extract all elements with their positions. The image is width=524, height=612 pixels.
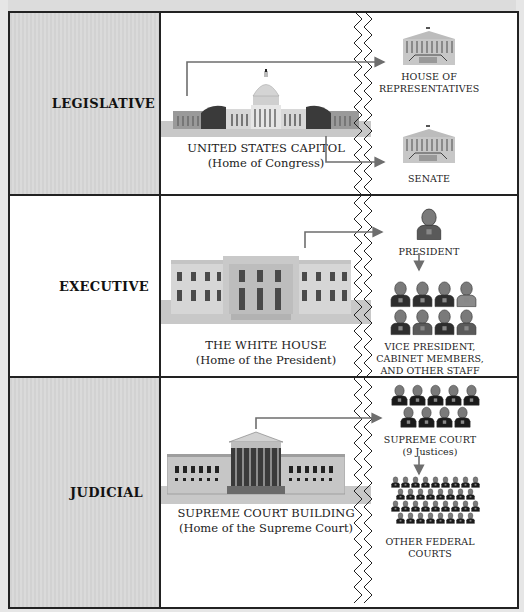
person-icon — [441, 500, 450, 512]
person-icon — [451, 476, 460, 488]
judges-group-icon — [385, 476, 485, 524]
person-icon — [426, 488, 435, 500]
org-cell-congress: HOUSE OF REPRESENTATIVES SENATE — [371, 13, 517, 194]
org-caption-senate: SENATE — [379, 173, 479, 185]
branch-label: LEGISLATIVE — [52, 96, 155, 111]
branch-cell-executive: EXECUTIVE — [10, 196, 161, 376]
row-executive: EXECUTIVE THE WHITE HOUSE — [10, 196, 517, 378]
building-caption: SUPREME COURT BUILDING (Home of the Supr… — [161, 506, 371, 536]
person-icon — [446, 488, 455, 500]
org-caption-house: HOUSE OF REPRESENTATIVES — [379, 71, 479, 95]
person-icon — [411, 500, 420, 512]
person-icon — [434, 280, 455, 308]
person-icon — [396, 512, 405, 524]
person-icon — [461, 476, 470, 488]
supreme-court-icon — [167, 430, 345, 498]
row-legislative: LEGISLATIVE — [10, 13, 517, 196]
justices-group-icon — [385, 384, 485, 428]
person-icon — [416, 512, 425, 524]
branches-table: LEGISLATIVE — [8, 11, 519, 609]
person-icon — [396, 488, 405, 500]
person-icon — [406, 488, 415, 500]
person-icon — [456, 308, 477, 336]
person-icon — [390, 308, 411, 336]
person-icon — [400, 406, 417, 428]
person-icon — [409, 384, 426, 406]
org-caption-supreme-court: SUPREME COURT (9 Justices) — [375, 434, 485, 458]
person-icon — [451, 500, 460, 512]
white-house-icon — [171, 256, 351, 320]
building-cell-capitol: UNITED STATES CAPITOL (Home of Congress) — [161, 13, 371, 194]
person-icon — [471, 500, 480, 512]
row-judicial: JUDICIAL SUPREME COURT BUILDI — [10, 378, 517, 607]
branch-label: JUDICIAL — [70, 485, 143, 500]
person-icon — [406, 512, 415, 524]
branch-cell-judicial: JUDICIAL — [10, 378, 161, 607]
person-icon — [412, 280, 433, 308]
building-cell-white-house: THE WHITE HOUSE (Home of the President) — [161, 196, 371, 376]
person-icon — [418, 406, 435, 428]
person-icon — [456, 488, 465, 500]
person-icon — [416, 208, 442, 240]
person-icon — [426, 512, 435, 524]
person-icon — [471, 476, 480, 488]
house-chamber-icon — [401, 27, 457, 67]
building-caption: UNITED STATES CAPITOL (Home of Congress) — [161, 141, 371, 171]
person-icon — [463, 384, 480, 406]
person-icon — [436, 512, 445, 524]
org-cell-executive: PRESIDENT VICE PRESIDENT, CABINET MEMBER… — [371, 196, 517, 376]
branch-label: EXECUTIVE — [59, 279, 149, 294]
person-icon — [421, 476, 430, 488]
org-cell-judicial: SUPREME COURT (9 Justices) OTHER FEDERAL… — [371, 378, 517, 607]
person-icon — [390, 280, 411, 308]
person-icon — [391, 476, 400, 488]
person-icon — [416, 488, 425, 500]
person-icon — [446, 512, 455, 524]
org-caption-president: PRESIDENT — [379, 246, 479, 258]
building-name: SUPREME COURT BUILDING — [161, 506, 371, 521]
capitol-icon — [171, 69, 361, 135]
branch-cell-legislative: LEGISLATIVE — [10, 13, 161, 194]
person-icon — [421, 500, 430, 512]
person-icon — [412, 308, 433, 336]
building-name: THE WHITE HOUSE — [161, 338, 371, 353]
senate-chamber-icon — [401, 125, 457, 165]
person-icon — [391, 500, 400, 512]
person-icon — [436, 488, 445, 500]
person-icon — [427, 384, 444, 406]
person-icon — [436, 406, 453, 428]
person-icon — [431, 500, 440, 512]
person-icon — [454, 406, 471, 428]
building-subtitle: (Home of the Supreme Court) — [161, 521, 371, 536]
org-caption-staff: VICE PRESIDENT, CABINET MEMBERS, AND OTH… — [375, 341, 485, 377]
person-icon — [411, 476, 420, 488]
person-icon — [456, 280, 477, 308]
title-strip-truncated — [8, 0, 516, 11]
person-icon — [401, 500, 410, 512]
person-icon — [401, 476, 410, 488]
building-caption: THE WHITE HOUSE (Home of the President) — [161, 338, 371, 368]
person-icon — [466, 512, 475, 524]
person-icon — [445, 384, 462, 406]
building-name: UNITED STATES CAPITOL — [161, 141, 371, 156]
building-subtitle: (Home of the President) — [161, 353, 371, 368]
person-icon — [466, 488, 475, 500]
person-icon — [415, 208, 442, 244]
person-icon — [461, 500, 470, 512]
building-subtitle: (Home of Congress) — [161, 156, 371, 171]
person-icon — [431, 476, 440, 488]
person-icon — [456, 512, 465, 524]
person-icon — [434, 308, 455, 336]
people-group-icon — [389, 280, 479, 336]
org-caption-federal-courts: OTHER FEDERAL COURTS — [375, 536, 485, 560]
person-icon — [391, 384, 408, 406]
building-cell-supreme-court: SUPREME COURT BUILDING (Home of the Supr… — [161, 378, 371, 607]
person-icon — [441, 476, 450, 488]
